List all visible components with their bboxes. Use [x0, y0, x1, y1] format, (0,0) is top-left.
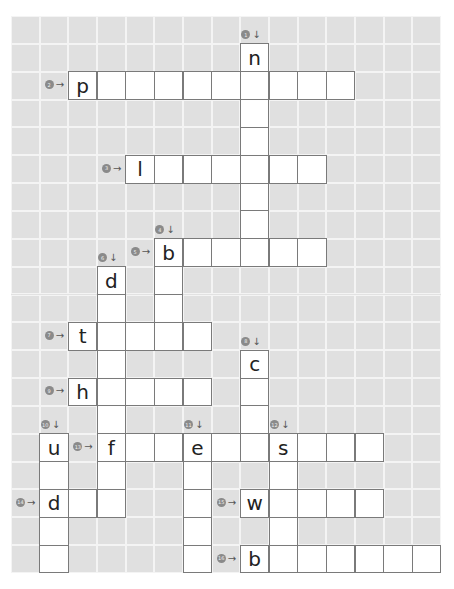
answer-cell[interactable]: [297, 155, 327, 184]
answer-cell[interactable]: [240, 127, 270, 156]
answer-cell[interactable]: [269, 71, 299, 100]
answer-cell-prefilled[interactable]: p: [68, 71, 98, 100]
answer-cell[interactable]: [97, 350, 127, 379]
answer-cell[interactable]: [326, 71, 356, 100]
answer-cell[interactable]: [240, 238, 270, 267]
answer-cell[interactable]: [154, 294, 184, 323]
answer-cell-prefilled[interactable]: t: [68, 322, 98, 351]
answer-cell[interactable]: [383, 545, 413, 574]
grid-background-cell: [183, 100, 212, 128]
answer-cell[interactable]: [39, 517, 69, 546]
answer-cell[interactable]: [154, 266, 184, 295]
answer-cell[interactable]: [355, 433, 385, 462]
answer-cell[interactable]: [297, 545, 327, 574]
answer-cell-prefilled[interactable]: d: [97, 266, 127, 295]
answer-cell[interactable]: [240, 99, 270, 128]
answer-cell[interactable]: [412, 545, 442, 574]
answer-cell[interactable]: [326, 545, 356, 574]
answer-cell[interactable]: [269, 545, 299, 574]
answer-cell[interactable]: [355, 489, 385, 518]
answer-cell[interactable]: [125, 433, 155, 462]
grid-background-cell: [412, 350, 441, 378]
answer-cell-prefilled[interactable]: s: [269, 433, 299, 462]
grid-background-cell: [355, 239, 384, 267]
answer-cell-prefilled[interactable]: e: [183, 433, 213, 462]
answer-cell[interactable]: [240, 433, 270, 462]
answer-cell[interactable]: [183, 545, 213, 574]
answer-cell-prefilled[interactable]: u: [39, 433, 69, 462]
answer-cell[interactable]: [240, 71, 270, 100]
grid-background-cell: [298, 517, 327, 545]
answer-cell[interactable]: [240, 155, 270, 184]
answer-cell[interactable]: [297, 489, 327, 518]
answer-cell-prefilled[interactable]: h: [68, 378, 98, 407]
answer-cell-prefilled[interactable]: w: [240, 489, 270, 518]
answer-cell[interactable]: [355, 545, 385, 574]
answer-cell[interactable]: [68, 489, 98, 518]
answer-cell[interactable]: [269, 461, 299, 490]
answer-cell[interactable]: [269, 517, 299, 546]
answer-cell[interactable]: [97, 461, 127, 490]
answer-cell[interactable]: [269, 155, 299, 184]
answer-cell[interactable]: [154, 433, 184, 462]
answer-cell[interactable]: [125, 322, 155, 351]
answer-cell[interactable]: [125, 71, 155, 100]
answer-cell[interactable]: [183, 517, 213, 546]
answer-cell-prefilled[interactable]: b: [240, 545, 270, 574]
answer-cell-prefilled[interactable]: n: [240, 43, 270, 72]
answer-cell[interactable]: [211, 71, 241, 100]
answer-cell[interactable]: [269, 238, 299, 267]
answer-cell-prefilled[interactable]: b: [154, 238, 184, 267]
answer-cell[interactable]: [240, 183, 270, 212]
answer-cell[interactable]: [97, 378, 127, 407]
answer-cell-prefilled[interactable]: f: [97, 433, 127, 462]
answer-cell[interactable]: [211, 238, 241, 267]
answer-cell[interactable]: [97, 294, 127, 323]
answer-cell[interactable]: [211, 433, 241, 462]
answer-cell-prefilled[interactable]: l: [125, 155, 155, 184]
answer-cell[interactable]: [97, 71, 127, 100]
answer-cell[interactable]: [183, 322, 213, 351]
answer-cell-prefilled[interactable]: c: [240, 350, 270, 379]
grid-background-cell: [212, 517, 241, 545]
answer-cell[interactable]: [125, 378, 155, 407]
answer-cell[interactable]: [240, 405, 270, 434]
arrow-right-icon: →: [27, 497, 35, 508]
answer-cell[interactable]: [97, 489, 127, 518]
arrow-down-icon: ↓: [281, 419, 289, 430]
answer-cell[interactable]: [297, 71, 327, 100]
answer-cell[interactable]: [183, 238, 213, 267]
answer-cell[interactable]: [183, 378, 213, 407]
answer-cell[interactable]: [297, 238, 327, 267]
answer-cell[interactable]: [269, 489, 299, 518]
answer-cell[interactable]: [154, 322, 184, 351]
grid-background-cell: [126, 211, 155, 239]
answer-cell[interactable]: [154, 378, 184, 407]
answer-cell[interactable]: [154, 155, 184, 184]
grid-background-cell: [269, 44, 298, 72]
clue-marker-4-down: 4↓: [155, 223, 174, 237]
answer-cell[interactable]: [97, 322, 127, 351]
answer-cell[interactable]: [183, 71, 213, 100]
answer-cell[interactable]: [297, 433, 327, 462]
clue-marker-3-across: 3→: [102, 161, 121, 175]
grid-background-cell: [384, 239, 413, 267]
answer-cell[interactable]: [183, 461, 213, 490]
answer-cell[interactable]: [39, 461, 69, 490]
grid-background-cell: [40, 267, 69, 295]
answer-cell[interactable]: [326, 433, 356, 462]
answer-cell[interactable]: [211, 155, 241, 184]
answer-cell[interactable]: [39, 545, 69, 574]
answer-cell[interactable]: [183, 155, 213, 184]
answer-cell-prefilled[interactable]: d: [39, 489, 69, 518]
answer-cell[interactable]: [183, 489, 213, 518]
answer-cell[interactable]: [240, 378, 270, 407]
grid-background-cell: [212, 211, 241, 239]
answer-cell[interactable]: [97, 405, 127, 434]
grid-background-cell: [269, 295, 298, 323]
grid-background-cell: [68, 44, 97, 72]
answer-cell[interactable]: [154, 71, 184, 100]
answer-cell[interactable]: [240, 210, 270, 239]
answer-cell[interactable]: [326, 489, 356, 518]
grid-background-cell: [68, 267, 97, 295]
